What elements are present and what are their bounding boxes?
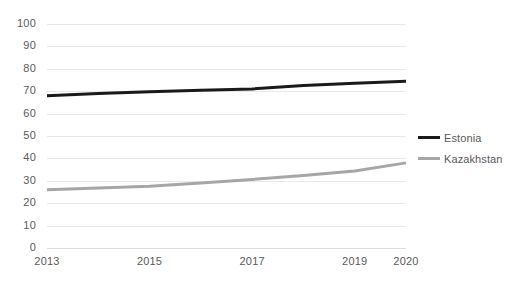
y-axis-tick-label: 30 — [23, 175, 36, 186]
y-axis-tick-label: 0 — [30, 242, 36, 253]
y-axis-tick-label: 100 — [17, 18, 36, 29]
series-layer — [47, 24, 406, 248]
line-chart: 0102030405060708090100 20132015201720192… — [0, 0, 512, 282]
y-axis-tick-label: 20 — [23, 197, 36, 208]
plot-area — [47, 24, 406, 248]
x-axis-tick-label: 2013 — [34, 255, 59, 267]
legend-label: Kazakhstan — [444, 153, 502, 165]
x-axis-tick-label: 2020 — [393, 255, 418, 267]
series-line-estonia — [47, 81, 406, 95]
legend-item-kazakhstan[interactable]: Kazakhstan — [418, 148, 510, 169]
y-axis-tick-label: 70 — [23, 85, 36, 96]
y-axis-tick-label: 60 — [23, 108, 36, 119]
legend-item-estonia[interactable]: Estonia — [418, 127, 510, 148]
x-axis: 20132015201720192020 — [0, 255, 512, 275]
chart-legend: EstoniaKazakhstan — [418, 127, 510, 169]
y-axis-tick-label: 40 — [23, 152, 36, 163]
legend-label: Estonia — [444, 132, 481, 144]
gridline — [47, 248, 406, 249]
x-axis-tick-label: 2019 — [342, 255, 367, 267]
x-axis-tick-label: 2017 — [240, 255, 265, 267]
y-axis-tick-label: 10 — [23, 220, 36, 231]
y-axis-tick-label: 50 — [23, 130, 36, 141]
y-axis-tick-label: 90 — [23, 40, 36, 51]
y-axis: 0102030405060708090100 — [0, 0, 44, 282]
y-axis-tick-label: 80 — [23, 63, 36, 74]
legend-swatch-icon — [418, 157, 440, 160]
series-line-kazakhstan — [47, 163, 406, 190]
legend-swatch-icon — [418, 136, 440, 139]
x-axis-tick-label: 2015 — [137, 255, 162, 267]
